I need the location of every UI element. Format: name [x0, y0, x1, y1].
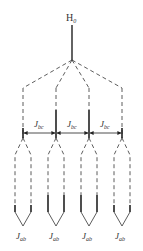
svg-text:Jab: Jab [16, 231, 26, 242]
fan-lines [23, 60, 122, 88]
lower-heavy-segments [15, 195, 130, 212]
column-verticals [23, 88, 122, 138]
lower-splits [15, 138, 130, 205]
svg-text:Jbc: Jbc [100, 119, 110, 130]
coupling-labels: Jbc Jbc Jbc [34, 119, 110, 130]
leaf-labels: Jab Jab Jab Jab [16, 231, 125, 242]
svg-text:Jab: Jab [82, 231, 92, 242]
top-label: H0 [66, 12, 76, 24]
svg-text:Jab: Jab [49, 231, 59, 242]
svg-text:Jbc: Jbc [34, 119, 44, 130]
converging-vs [15, 212, 130, 226]
svg-text:Jab: Jab [115, 231, 125, 242]
energy-level-splitting-diagram: H0 Jbc Jbc Jbc [0, 0, 143, 251]
svg-text:Jbc: Jbc [67, 119, 77, 130]
